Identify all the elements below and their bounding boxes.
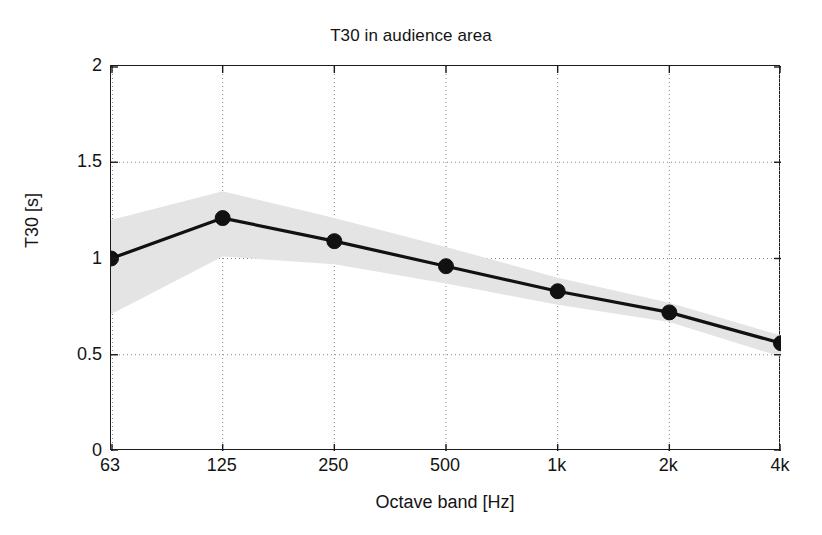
x-tick-label: 1k: [547, 455, 566, 476]
y-axis-label: T30 [s]: [22, 193, 42, 248]
y-axis-label-wrapper: T30 [s]: [22, 141, 43, 301]
x-axis-label: Octave band [Hz]: [110, 492, 780, 513]
x-tick-label: 2k: [659, 455, 678, 476]
y-tick-label: 1: [42, 247, 102, 268]
plot-area: [110, 65, 780, 450]
chart-figure: T30 in audience area 00.511.52 631252505…: [0, 0, 822, 535]
y-tick-label: 0.5: [42, 343, 102, 364]
plot-svg: [111, 66, 781, 451]
x-tick-label: 250: [318, 455, 348, 476]
chart-title: T30 in audience area: [0, 26, 822, 46]
y-tick-label: 1.5: [42, 151, 102, 172]
x-tick-label: 4k: [770, 455, 789, 476]
x-tick-label: 500: [430, 455, 460, 476]
x-tick-label: 63: [100, 455, 120, 476]
y-tick-label: 2: [42, 55, 102, 76]
x-axis-ticks: 631252505001k2k4k: [110, 455, 780, 485]
x-tick-label: 125: [207, 455, 237, 476]
y-tick-label: 0: [42, 440, 102, 461]
y-axis-ticks: 00.511.52: [38, 65, 102, 450]
